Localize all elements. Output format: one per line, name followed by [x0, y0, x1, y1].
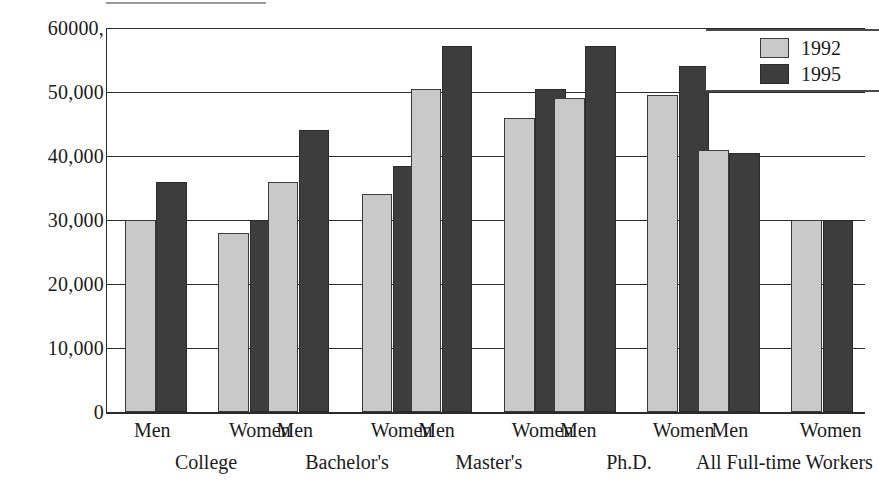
x-sublabel-all-full-time-workers-women: Women — [800, 418, 862, 442]
bar-bachelor-s-women-1992 — [362, 194, 392, 412]
bar-ph-d--men-1992 — [554, 98, 584, 412]
bar-chart: 60000,50,00040,00030,00020,00010,0000 Me… — [0, 0, 879, 484]
bar-bachelor-s-men-1992 — [268, 182, 298, 412]
legend-swatch-1992 — [760, 38, 789, 58]
x-sublabel-ph-d--women: Women — [653, 418, 715, 442]
legend-item-1995: 1995 — [760, 62, 841, 86]
bar-ph-d--men-1995 — [585, 46, 615, 412]
x-sublabel-all-full-time-workers-men: Men — [711, 418, 748, 442]
bar-college-women-1992 — [218, 233, 248, 412]
top-rule-fragment — [106, 2, 266, 4]
x-group-label-ph-d-: Ph.D. — [606, 450, 652, 474]
bar-ph-d--women-1992 — [647, 95, 677, 412]
legend-label-1995: 1995 — [801, 64, 841, 84]
x-sublabel-ph-d--men: Men — [560, 418, 597, 442]
x-group-label-college: College — [175, 450, 237, 474]
bar-all-full-time-workers-women-1992 — [791, 220, 821, 412]
x-group-label-bachelor-s: Bachelor's — [305, 450, 389, 474]
y-tick-label-40000: 40,000 — [6, 146, 104, 166]
bar-master-s-men-1995 — [442, 46, 472, 412]
legend-swatch-1995 — [760, 64, 789, 84]
y-tick-label-20000: 20,000 — [6, 274, 104, 294]
y-axis-tick-labels: 60000,50,00040,00030,00020,00010,0000 — [0, 0, 104, 484]
x-sublabel-master-s-men: Men — [418, 418, 455, 442]
bar-all-full-time-workers-men-1992 — [698, 150, 728, 412]
bar-master-s-men-1992 — [411, 89, 441, 412]
legend-label-1992: 1992 — [801, 38, 841, 58]
legend: 19921995 — [706, 29, 879, 92]
x-axis-labels: MenWomenCollegeMenWomenBachelor'sMenWome… — [0, 418, 879, 484]
y-tick-label-50000: 50,000 — [6, 82, 104, 102]
x-sublabel-college-men: Men — [134, 418, 171, 442]
legend-item-1992: 1992 — [760, 36, 841, 60]
bar-college-men-1995 — [156, 182, 186, 412]
x-group-label-master-s: Master's — [455, 450, 522, 474]
x-sublabel-bachelor-s-men: Men — [276, 418, 313, 442]
x-group-label-all-full-time-workers: All Full-time Workers — [696, 450, 873, 474]
bar-all-full-time-workers-men-1995 — [729, 153, 759, 412]
y-tick-label-30000: 30,000 — [6, 210, 104, 230]
bar-master-s-women-1992 — [504, 118, 534, 412]
bar-bachelor-s-men-1995 — [299, 130, 329, 412]
y-tick-label-60000: 60000, — [6, 18, 104, 38]
y-tick-label-10000: 10,000 — [6, 338, 104, 358]
bar-college-men-1992 — [125, 220, 155, 412]
bar-all-full-time-workers-women-1995 — [823, 220, 853, 412]
gridline-0 — [106, 412, 865, 413]
